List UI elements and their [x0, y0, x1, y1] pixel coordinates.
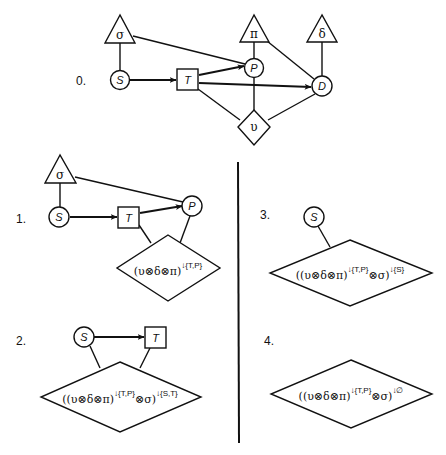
S-label: S: [80, 331, 88, 343]
pi-label: π: [250, 27, 258, 41]
P-label: P: [250, 62, 258, 74]
arc-T-D: [199, 83, 311, 87]
arc-T-P: [199, 66, 244, 75]
edge-potential-T: [139, 225, 151, 243]
edge-potential-S: [90, 346, 100, 368]
S-label: S: [55, 211, 63, 223]
influence-diagram-elimination: 0. σ π δ S P D T υ 1.: [0, 0, 446, 455]
edge-upsilon-D: [268, 94, 315, 120]
panel-3: 3. S ((υ⊗δ⊗π)↓{T,P}⊗σ)↓{S}: [260, 207, 432, 306]
panel-label: 0.: [76, 74, 86, 88]
panel-0: 0. σ π δ S P D T υ: [76, 15, 337, 145]
edge-potential-P: [180, 216, 190, 243]
panel-label: 2.: [16, 334, 26, 348]
upsilon-label: υ: [250, 120, 257, 134]
panel-label: 4.: [264, 334, 274, 348]
arc-T-P: [140, 206, 182, 213]
edge-potential-T: [140, 348, 150, 368]
panel-divider: [238, 162, 239, 443]
P-label: P: [188, 200, 196, 212]
S-label: S: [116, 74, 124, 86]
edge-sigma-P: [133, 36, 245, 64]
panel-2: 2. S T ((υ⊗δ⊗π)↓{T,P}⊗σ)↓{S,T}: [16, 327, 201, 432]
D-label: D: [318, 80, 326, 92]
delta-label: δ: [318, 27, 325, 41]
edge-potential-S: [318, 226, 330, 247]
panel-label: 3.: [260, 208, 270, 222]
edge-sigma-P: [75, 177, 183, 202]
sigma-label: σ: [56, 168, 64, 182]
sigma-label: σ: [116, 28, 124, 42]
panel-1: 1. σ S T P (υ⊗δ⊗π)↓{T,P}: [16, 155, 220, 301]
panel-4: 4. ((υ⊗δ⊗π)↓{T,P}⊗σ)↓∅: [264, 334, 432, 428]
panel-label: 1.: [16, 212, 26, 226]
S-label: S: [310, 211, 318, 223]
edge-upsilon-T: [198, 89, 240, 120]
edge-pi-D: [267, 41, 314, 79]
